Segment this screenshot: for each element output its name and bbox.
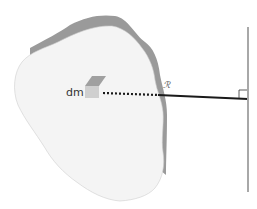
mass-element-label: dm [66, 86, 84, 99]
distance-solid [158, 95, 248, 99]
rigid-body [15, 26, 164, 201]
distance-label: ℛ [163, 80, 171, 90]
mass-element-front [85, 86, 99, 98]
rigid-body-diagram: dm ℛ [0, 0, 257, 209]
right-angle-marker [239, 90, 247, 98]
